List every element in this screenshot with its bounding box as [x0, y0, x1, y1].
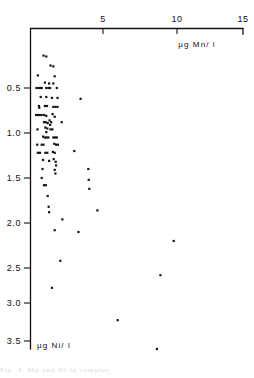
data-point	[49, 124, 51, 126]
data-point	[156, 348, 158, 350]
figure-container: 5 10 15 0.5 1.0 1.5 2.0 2.5 3.0 3.5 µg M…	[0, 0, 254, 378]
y-tick-label: 1.0	[7, 128, 21, 138]
data-point	[44, 105, 46, 107]
data-point	[54, 116, 56, 118]
y-tick-label: 1.5	[7, 173, 21, 183]
data-point-series	[35, 55, 175, 351]
data-point	[96, 209, 98, 211]
data-point	[43, 114, 45, 116]
data-point	[49, 64, 51, 66]
data-point	[56, 106, 58, 108]
x-tick-label: 10	[171, 14, 182, 24]
data-point	[55, 161, 57, 163]
data-point	[36, 128, 38, 130]
data-point	[49, 87, 51, 89]
data-point	[48, 206, 50, 208]
data-point	[56, 136, 58, 138]
data-point	[54, 169, 56, 171]
data-point	[54, 106, 56, 108]
data-point	[35, 87, 37, 89]
data-point	[50, 121, 52, 123]
data-point	[36, 144, 38, 146]
y-axis-title: µg Ni/ l	[37, 341, 71, 350]
data-point	[159, 274, 161, 276]
data-point	[45, 87, 47, 89]
data-point	[51, 287, 53, 289]
data-point	[77, 231, 79, 233]
data-point	[117, 319, 119, 321]
data-point	[37, 74, 39, 76]
data-point	[41, 168, 43, 170]
data-point	[45, 96, 47, 98]
y-axis-ticks	[24, 88, 31, 341]
data-point	[54, 172, 56, 174]
data-point	[37, 152, 39, 154]
data-point	[43, 121, 45, 123]
y-tick-label: 2.0	[7, 218, 21, 228]
axes	[24, 29, 243, 350]
data-point	[54, 229, 56, 231]
y-tick-label: 2.5	[7, 263, 21, 273]
data-point	[52, 82, 54, 84]
data-point	[61, 218, 63, 220]
data-point	[88, 179, 90, 181]
y-axis-tick-labels: 0.5 1.0 1.5 2.0 2.5 3.0 3.5	[7, 83, 21, 346]
data-point	[61, 121, 63, 123]
data-point	[48, 160, 50, 162]
data-point	[47, 136, 49, 138]
caption-fragment: Fig. 4. Mn and Ni in samples	[0, 366, 254, 378]
data-point	[39, 152, 41, 154]
data-point	[41, 114, 43, 116]
data-point	[39, 114, 41, 116]
x-tick-label: 15	[237, 14, 248, 24]
data-point	[55, 164, 57, 166]
data-point	[44, 152, 46, 154]
data-point	[41, 87, 43, 89]
data-point	[42, 159, 44, 161]
data-point	[80, 98, 82, 100]
data-point	[41, 177, 43, 179]
data-point	[38, 107, 40, 109]
data-point	[45, 55, 47, 57]
data-point	[45, 131, 47, 133]
data-point	[47, 195, 49, 197]
x-axis-tick-labels: 5 10 15	[100, 14, 248, 24]
data-point	[40, 96, 42, 98]
data-point	[53, 158, 55, 160]
y-tick-label: 3.0	[7, 298, 21, 308]
data-point	[46, 127, 48, 129]
data-point	[57, 144, 59, 146]
data-point	[52, 113, 54, 115]
data-point	[173, 240, 175, 242]
data-point	[56, 87, 58, 89]
data-point	[46, 152, 48, 154]
y-tick-label: 3.5	[7, 336, 21, 346]
data-point	[43, 184, 45, 186]
data-point	[51, 128, 53, 130]
data-point	[54, 152, 56, 154]
data-point	[45, 115, 47, 117]
x-axis-title: µg Mn/ l	[178, 40, 215, 49]
scatter-plot: 5 10 15 0.5 1.0 1.5 2.0 2.5 3.0 3.5 µg M…	[0, 0, 254, 378]
x-tick-label: 5	[100, 14, 106, 24]
data-point	[52, 65, 54, 67]
data-point	[56, 97, 58, 99]
data-point	[54, 75, 56, 77]
data-point	[44, 127, 46, 129]
data-point	[48, 82, 50, 84]
x-axis-ticks	[103, 29, 177, 35]
data-point	[52, 106, 54, 108]
data-point	[73, 150, 75, 152]
data-point	[51, 97, 53, 99]
data-point	[87, 168, 89, 170]
axis-frame-lines	[31, 29, 244, 350]
data-point	[42, 144, 44, 146]
data-point	[88, 188, 90, 190]
data-point	[45, 184, 47, 186]
data-point	[48, 211, 50, 213]
data-point	[59, 260, 61, 262]
data-point	[47, 122, 49, 124]
y-tick-label: 0.5	[7, 83, 21, 93]
data-point	[46, 105, 48, 107]
data-point	[44, 82, 46, 84]
